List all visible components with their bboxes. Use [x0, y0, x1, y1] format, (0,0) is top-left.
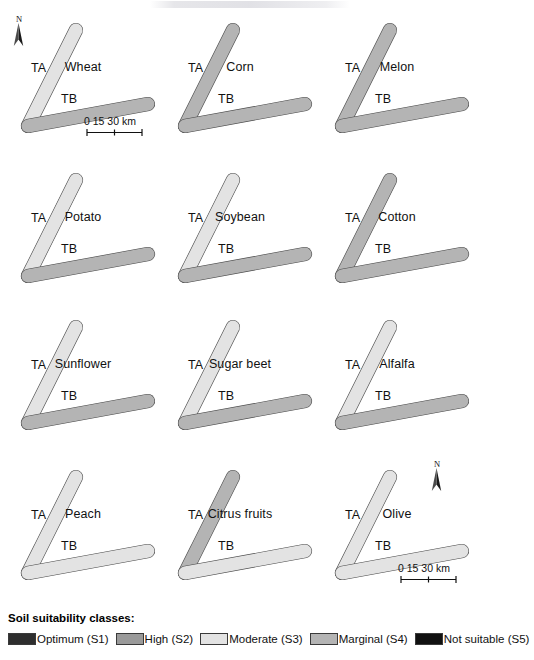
scale-bar-graphic: [398, 575, 460, 584]
map-panel-melon[interactable]: TATBMelon: [312, 8, 473, 159]
legend-item-s4[interactable]: Marginal (S4): [310, 633, 408, 645]
map-graphic-sunflower: [0, 305, 159, 456]
legend-items: Optimum (S1)High (S2)Moderate (S3)Margin…: [8, 631, 534, 647]
legend-swatch-s3: [200, 633, 228, 645]
crop-title-sunflower: Sunflower: [55, 357, 112, 371]
legend-item-s2[interactable]: High (S2): [116, 633, 194, 645]
map-panel-corn[interactable]: TATBCorn: [155, 8, 316, 159]
crop-title-corn: Corn: [226, 60, 254, 74]
legend-label-s1: Optimum (S1): [37, 633, 109, 645]
map-panel-sugar-beet[interactable]: TATBSugar beet: [155, 305, 316, 456]
region-label-tb: TB: [218, 242, 234, 256]
region-label-ta: TA: [345, 211, 360, 225]
scale-bar-labels: 0 15 30 km: [84, 115, 136, 127]
region-label-ta: TA: [188, 211, 203, 225]
region-label-tb: TB: [61, 389, 77, 403]
map-panel-potato[interactable]: TATBPotato: [0, 158, 159, 309]
map-graphic-peach: [0, 455, 159, 606]
region-label-tb: TB: [218, 539, 234, 553]
crop-title-wheat: Wheat: [65, 60, 102, 74]
crop-title-melon: Melon: [380, 60, 415, 74]
legend-swatch-s1: [8, 633, 36, 645]
crop-title-cotton: Cotton: [378, 210, 415, 224]
legend-title: Soil suitability classes:: [8, 612, 135, 624]
legend-item-s5[interactable]: Not suitable (S5): [415, 633, 530, 645]
map-graphic-alfalfa: [312, 305, 473, 456]
legend-swatch-s5: [415, 633, 443, 645]
region-label-tb: TB: [375, 389, 391, 403]
region-label-ta: TA: [345, 358, 360, 372]
map-graphic-melon: [312, 8, 473, 159]
crop-title-sugar-beet: Sugar beet: [209, 357, 271, 371]
legend-label-s4: Marginal (S4): [339, 633, 408, 645]
map-graphic-cotton: [312, 158, 473, 309]
map-panel-alfalfa[interactable]: TATBAlfalfa: [312, 305, 473, 456]
region-label-ta: TA: [188, 61, 203, 75]
north-arrow-glyph: [428, 468, 445, 492]
map-graphic-soybean: [155, 158, 316, 309]
legend-item-s1[interactable]: Optimum (S1): [8, 633, 109, 645]
region-label-ta: TA: [31, 61, 46, 75]
map-panel-soybean[interactable]: TATBSoybean: [155, 158, 316, 309]
crop-title-citrus-fruits: Citrus fruits: [208, 507, 273, 521]
maps-grid: TATBWheat0 15 30 kmNTATBCornTATBMelonTAT…: [0, 0, 483, 604]
legend-label-s2: High (S2): [145, 633, 194, 645]
legend: Soil suitability classes: Optimum (S1)Hi…: [0, 604, 483, 660]
region-label-ta: TA: [345, 508, 360, 522]
map-panel-citrus-fruits[interactable]: TATBCitrus fruits: [155, 455, 316, 606]
map-graphic-potato: [0, 158, 159, 309]
region-label-tb: TB: [218, 389, 234, 403]
map-graphic-citrus-fruits: [155, 455, 316, 606]
region-label-tb: TB: [61, 242, 77, 256]
crop-title-olive: Olive: [383, 507, 412, 521]
map-graphic-corn: [155, 8, 316, 159]
region-label-ta: TA: [188, 508, 203, 522]
scale-bar-labels: 0 15 30 km: [398, 562, 450, 574]
legend-label-s3: Moderate (S3): [229, 633, 303, 645]
region-label-tb: TB: [375, 242, 391, 256]
crop-title-peach: Peach: [65, 507, 101, 521]
map-panel-olive[interactable]: TATBOlive0 15 30 kmN: [312, 455, 473, 606]
region-label-ta: TA: [31, 358, 46, 372]
legend-swatch-s2: [116, 633, 144, 645]
region-label-tb: TB: [375, 92, 391, 106]
crop-title-alfalfa: Alfalfa: [379, 357, 414, 371]
map-panel-peach[interactable]: TATBPeach: [0, 455, 159, 606]
region-label-ta: TA: [188, 358, 203, 372]
region-label-tb: TB: [218, 92, 234, 106]
region-label-ta: TA: [31, 211, 46, 225]
legend-swatch-s4: [310, 633, 338, 645]
region-label-ta: TA: [345, 61, 360, 75]
legend-label-s5: Not suitable (S5): [444, 633, 530, 645]
map-panel-cotton[interactable]: TATBCotton: [312, 158, 473, 309]
scale-bar-graphic: [84, 128, 146, 137]
region-label-ta: TA: [31, 508, 46, 522]
region-label-tb: TB: [61, 92, 77, 106]
map-graphic-sugar-beet: [155, 305, 316, 456]
map-panel-sunflower[interactable]: TATBSunflower: [0, 305, 159, 456]
crop-title-soybean: Soybean: [215, 210, 265, 224]
map-panel-wheat[interactable]: TATBWheat0 15 30 kmN: [0, 8, 159, 159]
region-label-tb: TB: [375, 539, 391, 553]
crop-title-potato: Potato: [65, 210, 102, 224]
legend-item-s3[interactable]: Moderate (S3): [200, 633, 303, 645]
region-label-tb: TB: [61, 539, 77, 553]
north-arrow-glyph: [10, 23, 27, 47]
